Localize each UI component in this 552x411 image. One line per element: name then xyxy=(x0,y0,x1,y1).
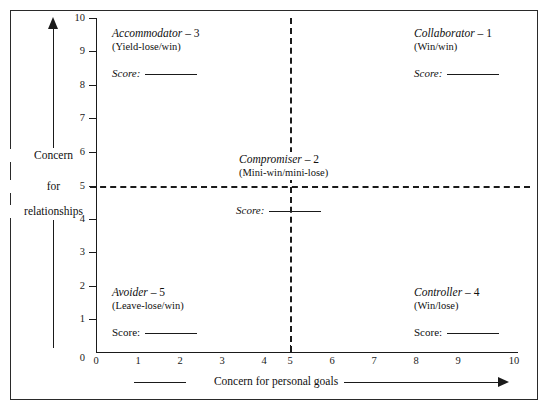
y-axis-caption-line-3: relationships xyxy=(0,205,107,218)
y-tick-mark xyxy=(89,85,96,86)
controller-subtitle: (Win/lose) xyxy=(414,299,499,313)
y-tick-label: 4 xyxy=(63,213,85,224)
y-tick-label: 6 xyxy=(63,146,85,157)
x-tick-label: 4 xyxy=(254,355,274,366)
vertical-divider-dashed-line xyxy=(290,18,292,352)
accommodator-score-blank[interactable] xyxy=(145,65,197,75)
collaborator-score-label: Score: xyxy=(414,67,442,79)
accommodator-title: Accommodator – 3 xyxy=(112,26,200,40)
controller-score-label: Score: xyxy=(414,326,442,338)
quadrant-label-avoider: Avoider – 5 (Leave-lose/win) Score: xyxy=(112,285,197,339)
avoider-score-row: Score: xyxy=(112,324,197,339)
accommodator-score-label: Score: xyxy=(112,67,140,79)
y-tick-label: 8 xyxy=(63,79,85,90)
x-tick-label: 0 xyxy=(86,355,106,366)
y-tick-mark xyxy=(89,219,96,220)
x-tick-label: 7 xyxy=(364,355,384,366)
avoider-score-label: Score: xyxy=(112,326,140,338)
collaborator-title: Collaborator – 1 xyxy=(414,26,499,40)
conflict-style-grid-figure: Concern for relationships 10 9 8 7 6 5 4… xyxy=(0,0,552,411)
quadrant-label-collaborator: Collaborator – 1 (Win/win) Score: xyxy=(414,26,499,80)
y-axis-caption-line-1: Concern xyxy=(0,149,107,162)
y-tick-mark xyxy=(89,252,96,253)
y-tick-label: 7 xyxy=(63,112,85,123)
accommodator-score-row: Score: xyxy=(112,65,200,80)
y-tick-label: 10 xyxy=(63,12,85,23)
x-tick-label: 6 xyxy=(322,355,342,366)
avoider-title: Avoider – 5 xyxy=(112,285,197,299)
y-tick-label: 3 xyxy=(63,246,85,257)
y-tick-mark xyxy=(89,286,96,287)
y-axis-caption-rule-upper xyxy=(53,28,54,148)
quadrant-label-compromiser: Compromiser – 2 (Mini-win/mini-lose) xyxy=(236,152,331,180)
y-tick-mark xyxy=(89,319,96,320)
accommodator-subtitle: (Yield-lose/win) xyxy=(112,40,200,54)
compromiser-score-label: Score: xyxy=(236,204,264,216)
x-tick-label: 2 xyxy=(170,355,190,366)
horizontal-divider-dashed-line xyxy=(90,186,530,188)
avoider-subtitle: (Leave-lose/win) xyxy=(112,299,197,313)
x-tick-label: 10 xyxy=(504,355,524,366)
y-tick-mark xyxy=(89,51,96,52)
y-tick-mark xyxy=(89,118,96,119)
x-axis-caption-rule-right xyxy=(344,382,499,383)
x-tick-label: 5 xyxy=(280,355,300,366)
y-axis-caption-rule-lower xyxy=(53,220,54,348)
y-tick-mark xyxy=(89,18,96,19)
collaborator-subtitle: (Win/win) xyxy=(414,40,499,54)
x-axis-arrowhead-icon xyxy=(498,377,509,387)
y-tick-label: 1 xyxy=(63,313,85,324)
x-tick-label: 8 xyxy=(406,355,426,366)
y-tick-label: 0 xyxy=(63,352,85,363)
compromiser-score-blank[interactable] xyxy=(269,202,321,212)
y-tick-label: 5 xyxy=(63,180,85,191)
controller-score-blank[interactable] xyxy=(447,324,499,334)
compromiser-title: Compromiser – 2 xyxy=(239,152,328,166)
compromiser-subtitle: (Mini-win/mini-lose) xyxy=(239,166,328,180)
quadrant-label-controller: Controller – 4 (Win/lose) Score: xyxy=(414,285,499,339)
y-tick-label: 9 xyxy=(63,45,85,56)
collaborator-score-row: Score: xyxy=(414,65,499,80)
quadrant-label-accommodator: Accommodator – 3 (Yield-lose/win) Score: xyxy=(112,26,200,80)
avoider-score-blank[interactable] xyxy=(145,324,197,334)
x-tick-label: 3 xyxy=(212,355,232,366)
x-tick-label: 9 xyxy=(448,355,468,366)
x-axis-line xyxy=(96,352,518,353)
controller-title: Controller – 4 xyxy=(414,285,499,299)
y-tick-mark xyxy=(89,152,96,153)
y-axis-line xyxy=(96,18,97,352)
collaborator-score-blank[interactable] xyxy=(447,65,499,75)
x-tick-label: 1 xyxy=(128,355,148,366)
x-axis-caption-label: Concern for personal goals xyxy=(186,374,366,389)
compromiser-score-row: Score: xyxy=(236,200,321,218)
controller-score-row: Score: xyxy=(414,324,499,339)
y-tick-label: 2 xyxy=(63,280,85,291)
